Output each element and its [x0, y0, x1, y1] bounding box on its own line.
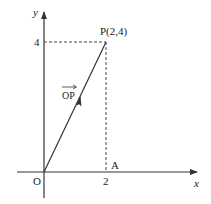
x-axis-label: x [193, 177, 199, 189]
x-tick-label: 2 [103, 175, 109, 187]
point-a-label: A [111, 159, 119, 171]
vector-op-line [44, 42, 106, 172]
vector-op-label: OP [62, 90, 75, 101]
y-axis-label: y [32, 6, 38, 18]
y-tick-label: 4 [34, 36, 40, 48]
vector-arrowhead-icon [76, 96, 81, 107]
point-p-label: P(2,4) [100, 25, 128, 38]
origin-label: O [33, 175, 41, 187]
coordinate-diagram: y 4 P(2,4) O 2 A x OP [0, 0, 211, 204]
